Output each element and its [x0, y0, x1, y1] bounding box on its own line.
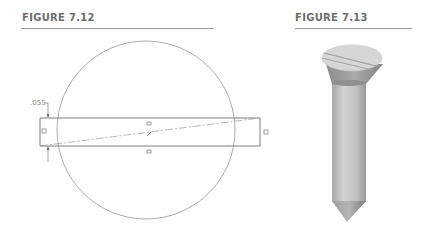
figure-7-13-screw	[0, 0, 426, 232]
screw-head-top	[322, 45, 382, 71]
screw-shaft	[332, 80, 366, 202]
screw-head-underside-edge	[332, 80, 366, 86]
screw-tip	[332, 201, 366, 222]
